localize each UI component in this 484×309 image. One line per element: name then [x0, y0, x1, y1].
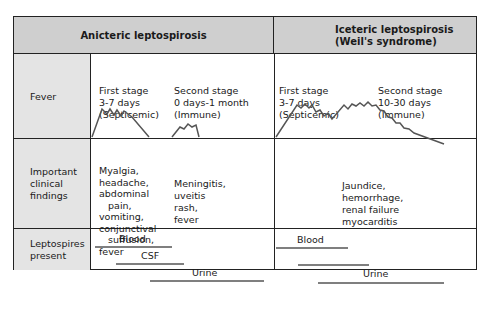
leptospirosis-table: Anicteric leptospirosis Iceteric leptosp… [13, 16, 477, 270]
leptospire-bars [14, 17, 478, 271]
